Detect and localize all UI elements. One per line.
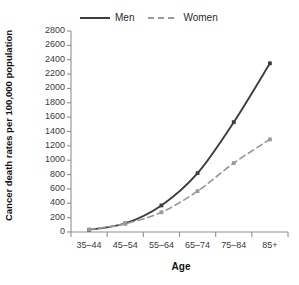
data-point-marker-women	[268, 138, 272, 142]
data-point-marker-women	[160, 210, 164, 214]
series-line-men	[89, 63, 270, 230]
plot-area	[0, 0, 299, 285]
data-point-marker-women	[87, 228, 91, 232]
data-point-marker-men	[268, 61, 272, 65]
x-tick-marks	[71, 232, 288, 237]
data-point-marker-women	[196, 189, 200, 193]
data-point-marker-women	[123, 222, 127, 226]
y-tick-marks	[67, 31, 71, 232]
data-point-marker-men	[160, 204, 164, 208]
data-point-marker-women	[232, 161, 236, 165]
data-point-marker-men	[196, 171, 200, 175]
data-series-layer	[87, 61, 272, 231]
data-point-marker-men	[232, 120, 236, 124]
series-line-women	[89, 139, 270, 229]
chart-container: Men Women Cancer death rates per 100,000…	[0, 0, 299, 285]
